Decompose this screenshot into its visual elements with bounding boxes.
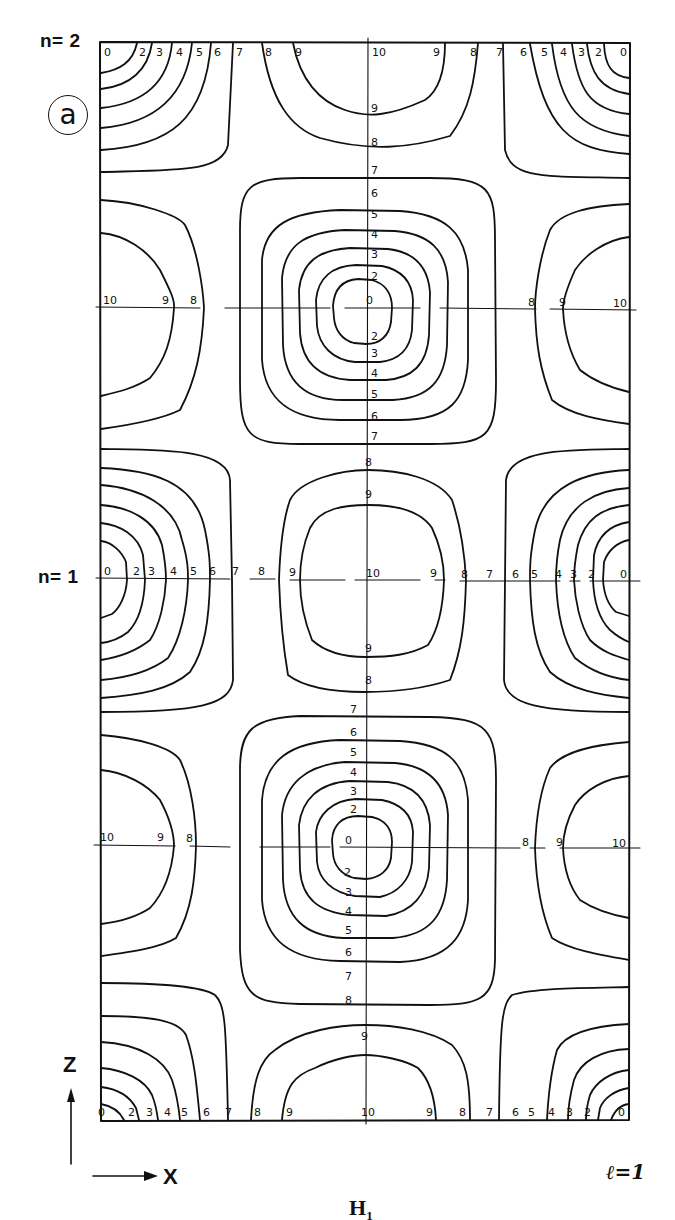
x-axis-label: X xyxy=(163,1164,178,1190)
svg-text:2: 2 xyxy=(588,568,595,581)
svg-text:3: 3 xyxy=(566,1106,573,1119)
panel-label-badge: a xyxy=(48,95,88,135)
svg-text:4: 4 xyxy=(345,905,352,918)
mode-title: H1 xyxy=(349,1195,373,1220)
svg-text:3: 3 xyxy=(578,46,585,59)
svg-text:8: 8 xyxy=(371,136,378,149)
svg-text:3: 3 xyxy=(146,1106,153,1119)
svg-text:3: 3 xyxy=(371,248,378,261)
svg-text:9: 9 xyxy=(426,1106,433,1119)
svg-text:9: 9 xyxy=(286,1106,293,1119)
svg-text:3: 3 xyxy=(156,46,163,59)
svg-text:2: 2 xyxy=(584,1106,591,1119)
svg-text:10: 10 xyxy=(361,1106,375,1119)
svg-text:8: 8 xyxy=(461,568,468,581)
svg-text:10: 10 xyxy=(100,831,114,844)
svg-text:8: 8 xyxy=(265,46,272,59)
svg-text:9: 9 xyxy=(365,642,372,655)
svg-text:5: 5 xyxy=(531,568,538,581)
svg-text:7: 7 xyxy=(350,703,357,716)
panel-label: a xyxy=(59,101,76,129)
svg-text:5: 5 xyxy=(345,924,352,937)
svg-text:5: 5 xyxy=(190,565,197,578)
svg-text:3: 3 xyxy=(371,347,378,360)
svg-text:4: 4 xyxy=(548,1106,555,1119)
svg-text:4: 4 xyxy=(555,568,562,581)
svg-text:9: 9 xyxy=(157,831,164,844)
svg-text:9: 9 xyxy=(162,294,169,307)
svg-text:5: 5 xyxy=(350,746,357,759)
svg-text:10: 10 xyxy=(372,46,386,59)
svg-text:8: 8 xyxy=(470,46,477,59)
svg-text:6: 6 xyxy=(345,946,352,959)
svg-text:0: 0 xyxy=(366,294,373,307)
svg-text:7: 7 xyxy=(371,430,378,443)
svg-text:10: 10 xyxy=(103,294,117,307)
svg-text:7: 7 xyxy=(232,565,239,578)
svg-text:5: 5 xyxy=(541,46,548,59)
svg-text:6: 6 xyxy=(520,46,527,59)
svg-text:6: 6 xyxy=(350,726,357,739)
svg-text:4: 4 xyxy=(176,46,183,59)
svg-text:8: 8 xyxy=(258,565,265,578)
svg-text:4: 4 xyxy=(170,565,177,578)
svg-text:8: 8 xyxy=(186,832,193,845)
svg-text:0: 0 xyxy=(104,565,111,578)
svg-text:6: 6 xyxy=(371,187,378,200)
svg-text:0: 0 xyxy=(345,834,352,847)
svg-text:7: 7 xyxy=(496,46,503,59)
svg-text:3: 3 xyxy=(350,785,357,798)
svg-text:8: 8 xyxy=(365,456,372,469)
svg-text:5: 5 xyxy=(371,388,378,401)
svg-text:8: 8 xyxy=(345,994,352,1007)
mode-subscript: 1 xyxy=(366,1208,373,1220)
svg-text:6: 6 xyxy=(203,1106,210,1119)
svg-text:6: 6 xyxy=(512,568,519,581)
svg-text:5: 5 xyxy=(528,1106,535,1119)
svg-text:0: 0 xyxy=(104,46,111,59)
svg-text:8: 8 xyxy=(459,1106,466,1119)
svg-text:7: 7 xyxy=(225,1106,232,1119)
svg-text:3: 3 xyxy=(345,886,352,899)
svg-text:9: 9 xyxy=(556,836,563,849)
svg-text:7: 7 xyxy=(345,970,352,983)
svg-text:6: 6 xyxy=(209,565,216,578)
svg-text:4: 4 xyxy=(164,1106,171,1119)
svg-text:10: 10 xyxy=(612,837,626,850)
svg-text:8: 8 xyxy=(254,1106,261,1119)
svg-text:5: 5 xyxy=(181,1106,188,1119)
svg-text:9: 9 xyxy=(361,1030,368,1043)
svg-text:0: 0 xyxy=(98,1106,105,1119)
row-label-n2: n= 2 xyxy=(40,30,81,52)
svg-text:9: 9 xyxy=(430,567,437,580)
row-label-n1: n= 1 xyxy=(38,566,79,588)
svg-text:7: 7 xyxy=(486,1106,493,1119)
svg-text:9: 9 xyxy=(365,488,372,501)
svg-text:8: 8 xyxy=(365,674,372,687)
svg-text:5: 5 xyxy=(196,46,203,59)
contour-level-labels: 02345678910987654320 987654320234567 109… xyxy=(98,46,627,1119)
svg-text:4: 4 xyxy=(371,228,378,241)
svg-text:2: 2 xyxy=(139,46,146,59)
svg-text:4: 4 xyxy=(560,46,567,59)
z-axis-label: Z xyxy=(63,1052,77,1078)
svg-text:8: 8 xyxy=(528,296,535,309)
svg-text:3: 3 xyxy=(148,565,155,578)
svg-text:2: 2 xyxy=(128,1106,135,1119)
svg-text:7: 7 xyxy=(486,568,493,581)
l-index-label: ℓ=1 xyxy=(606,1160,645,1184)
contour-figure: 02345678910987654320 987654320234567 109… xyxy=(0,0,675,1220)
mode-letter: H xyxy=(349,1195,366,1220)
svg-text:2: 2 xyxy=(344,866,351,879)
svg-text:6: 6 xyxy=(512,1106,519,1119)
svg-text:4: 4 xyxy=(350,766,357,779)
svg-text:6: 6 xyxy=(214,46,221,59)
svg-text:9: 9 xyxy=(559,296,566,309)
svg-text:2: 2 xyxy=(350,803,357,816)
svg-text:0: 0 xyxy=(620,46,627,59)
svg-text:9: 9 xyxy=(295,46,302,59)
svg-text:8: 8 xyxy=(190,294,197,307)
svg-text:10: 10 xyxy=(613,297,627,310)
svg-text:8: 8 xyxy=(522,836,529,849)
svg-text:5: 5 xyxy=(371,208,378,221)
